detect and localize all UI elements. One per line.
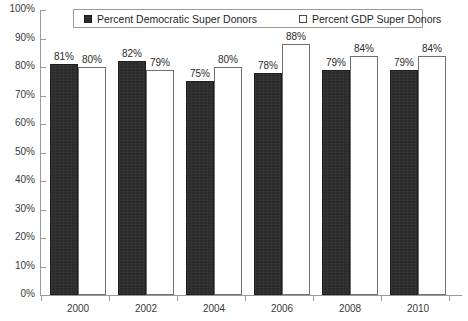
x-axis-line xyxy=(40,295,462,296)
y-axis-tick-mark xyxy=(41,96,46,97)
x-axis-tick-mark xyxy=(381,296,382,301)
bar-value-label: 80% xyxy=(211,54,245,66)
x-axis-category-label: 2006 xyxy=(252,303,312,315)
bar-value-label: 75% xyxy=(183,68,217,80)
y-axis-tick-label: 90% xyxy=(15,32,35,44)
y-axis-tick-mark xyxy=(41,210,46,211)
y-axis-tick-mark xyxy=(41,181,46,182)
y-axis-tick-mark xyxy=(41,10,46,11)
bar-democratic xyxy=(186,81,214,295)
x-axis-category-label: 2008 xyxy=(320,303,380,315)
bar-value-label: 79% xyxy=(319,57,353,69)
y-axis-tick-label: 30% xyxy=(15,203,35,215)
bar-democratic xyxy=(254,73,282,295)
bar-value-label: 79% xyxy=(143,57,177,69)
x-axis-category-label: 2000 xyxy=(48,303,108,315)
y-axis-tick-label: 60% xyxy=(15,117,35,129)
x-axis-tick-mark xyxy=(109,296,110,301)
x-axis-tick-mark xyxy=(313,296,314,301)
bar-value-label: 79% xyxy=(387,57,421,69)
x-axis-tick-mark xyxy=(449,296,450,301)
y-axis-tick-label: 80% xyxy=(15,60,35,72)
legend-label-gdp: Percent GDP Super Donors xyxy=(312,13,441,25)
y-axis-tick-mark xyxy=(41,39,46,40)
y-axis-tick-label: 50% xyxy=(15,146,35,158)
bar-value-label: 78% xyxy=(251,60,285,72)
x-axis-tick-mark xyxy=(245,296,246,301)
bar-value-label: 88% xyxy=(279,31,313,43)
y-axis-tick-mark xyxy=(41,67,46,68)
bar-gdp xyxy=(418,56,446,295)
bar-democratic xyxy=(390,70,418,295)
y-axis-tick-mark xyxy=(41,238,46,239)
x-axis-tick-mark xyxy=(177,296,178,301)
bar-value-label: 84% xyxy=(415,43,449,55)
y-axis-tick-label: 70% xyxy=(15,89,35,101)
y-axis-tick-label: 20% xyxy=(15,231,35,243)
x-axis-category-label: 2002 xyxy=(116,303,176,315)
filled-square-icon xyxy=(84,15,92,23)
legend-entry-democratic: Percent Democratic Super Donors xyxy=(84,13,257,25)
x-axis-category-label: 2010 xyxy=(388,303,448,315)
bar-gdp xyxy=(78,67,106,295)
y-axis-tick-mark xyxy=(41,124,46,125)
y-axis-tick-label: 40% xyxy=(15,174,35,186)
y-axis-tick-mark xyxy=(41,153,46,154)
bar-value-label: 84% xyxy=(347,43,381,55)
legend-label-democratic: Percent Democratic Super Donors xyxy=(97,13,257,25)
bar-democratic xyxy=(118,61,146,295)
bar-value-label: 80% xyxy=(75,54,109,66)
bar-gdp xyxy=(214,67,242,295)
legend: Percent Democratic Super Donors Percent … xyxy=(73,9,423,28)
hollow-square-icon xyxy=(299,15,307,23)
y-axis-tick-mark xyxy=(41,267,46,268)
x-axis-category-label: 2004 xyxy=(184,303,244,315)
bar-democratic xyxy=(322,70,350,295)
bar-gdp xyxy=(350,56,378,295)
bar-gdp xyxy=(282,44,310,295)
y-axis-tick-label: 0% xyxy=(21,288,35,300)
bar-democratic xyxy=(50,64,78,295)
y-axis-tick-label: 10% xyxy=(15,260,35,272)
bar-chart: 0%10%20%30%40%50%60%70%80%90%100% 81%80%… xyxy=(0,0,468,321)
legend-entry-gdp: Percent GDP Super Donors xyxy=(299,13,441,25)
bar-gdp xyxy=(146,70,174,295)
y-axis-tick-label: 100% xyxy=(9,3,35,15)
x-axis-tick-mark xyxy=(41,296,42,301)
